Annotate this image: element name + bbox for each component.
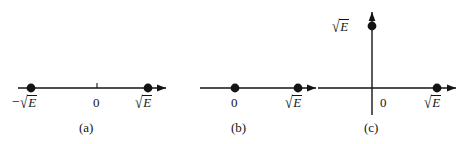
radicand-symbol: E: [292, 95, 302, 111]
sqrt-expression: √E: [20, 95, 37, 111]
point-imaginary-root: [368, 22, 377, 31]
point-positive-root: [144, 84, 153, 93]
sqrt-expression: √E: [332, 19, 349, 35]
caption-panel-b: (b): [231, 120, 246, 136]
panel-b: 0 √E (b): [178, 0, 318, 144]
point-origin-root: [231, 84, 240, 93]
panel-c: √E 0 √E (c): [318, 0, 464, 144]
sqrt-expression: √E: [135, 95, 152, 111]
label-panel-a-positive-root: √E: [135, 95, 152, 111]
point-positive-root: [294, 84, 303, 93]
radicand-symbol: E: [142, 95, 152, 111]
label-panel-a-zero: 0: [93, 96, 100, 109]
caption-panel-c: (c): [364, 120, 378, 136]
caption-panel-a: (a): [79, 120, 93, 136]
label-panel-c-zero: 0: [380, 96, 387, 109]
label-panel-b-positive-root: √E: [285, 95, 302, 111]
panel-a: −√E 0 √E (a): [0, 0, 178, 144]
sqrt-expression: √E: [285, 95, 302, 111]
minus-sign: −: [12, 94, 20, 109]
label-negative-root: −√E: [12, 95, 37, 111]
radicand-symbol: E: [27, 95, 37, 111]
radicand-symbol: E: [339, 19, 349, 35]
right-arrowhead-icon: [447, 85, 456, 92]
panel-b-axis: [178, 0, 318, 144]
sqrt-expression: √E: [424, 95, 441, 111]
radicand-symbol: E: [431, 95, 441, 111]
right-arrowhead-icon: [307, 85, 316, 92]
up-arrowhead-icon: [369, 12, 376, 21]
root-location-figure: −√E 0 √E (a) 0 √E (b): [0, 0, 464, 144]
point-real-root: [433, 84, 442, 93]
label-panel-c-real-root: √E: [424, 95, 441, 111]
label-panel-b-zero: 0: [231, 96, 238, 109]
right-arrowhead-icon: [157, 85, 166, 92]
point-negative-root: [27, 84, 36, 93]
label-panel-c-imaginary-root: √E: [332, 19, 349, 35]
